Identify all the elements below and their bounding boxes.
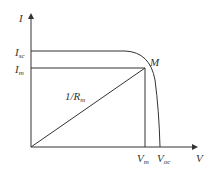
diagram-canvas: I V Isc Im Vm Voc M 1/Rm bbox=[0, 0, 211, 175]
im-label: Im bbox=[14, 63, 24, 77]
voc-label: Voc bbox=[157, 152, 171, 166]
isc-label: Isc bbox=[14, 46, 25, 60]
load-line bbox=[31, 68, 145, 147]
y-axis-label: I bbox=[18, 12, 24, 24]
vm-label: Vm bbox=[137, 152, 149, 166]
slope-label: 1/Rm bbox=[65, 90, 85, 104]
x-axis-label: V bbox=[196, 152, 204, 164]
iv-curve bbox=[31, 51, 160, 147]
point-m-label: M bbox=[149, 56, 160, 68]
iv-curve-diagram: I V Isc Im Vm Voc M 1/Rm bbox=[0, 0, 211, 175]
